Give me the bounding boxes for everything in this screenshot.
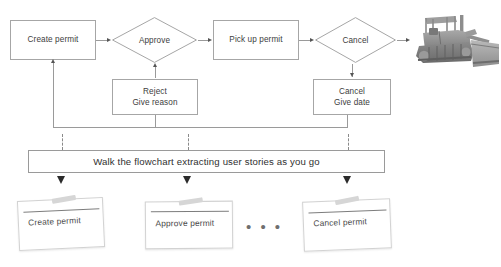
- fat-arrow-to-card-1: [57, 176, 65, 184]
- node-pick-up-permit: Pick up permit: [213, 20, 299, 60]
- arrowhead-create-to-approve: [107, 38, 111, 42]
- tape-icon: [178, 197, 202, 205]
- dashed-drop-left: [62, 134, 63, 150]
- instruction-banner-label: Walk the flowchart extracting user stori…: [93, 156, 320, 167]
- arrowhead-reject-to-approve: [153, 63, 157, 67]
- card-rule: [309, 209, 386, 213]
- dashed-drop-right: [348, 134, 349, 150]
- loop-riser-to-create: [53, 62, 54, 128]
- dashed-drop-middle: [188, 134, 189, 150]
- story-card-label: Create permit: [28, 215, 81, 227]
- bulldozer-photo: [411, 6, 499, 70]
- card-rule: [151, 211, 228, 213]
- node-cancel-label: Cancel: [315, 17, 396, 63]
- story-card-label: Approve permit: [155, 217, 214, 228]
- fat-arrow-to-card-2: [183, 176, 191, 184]
- story-card-label: Cancel permit: [313, 217, 367, 229]
- node-approve-label: Approve: [112, 17, 197, 63]
- arrowhead-pickup-to-cancel: [310, 38, 314, 42]
- fat-arrow-to-card-3: [343, 176, 351, 184]
- story-card: Cancel permit: [302, 198, 392, 251]
- arrowhead-loop-to-create: [51, 59, 55, 63]
- node-cancel-give-date-line1: Cancel: [339, 86, 365, 97]
- tape-icon: [51, 195, 75, 204]
- story-card: Approve permit: [145, 201, 233, 250]
- node-cancel: Cancel: [315, 17, 396, 63]
- arrowhead-approve-to-pickup: [208, 38, 212, 42]
- tape-icon: [335, 196, 360, 206]
- node-pick-up-permit-label: Pick up permit: [229, 34, 282, 45]
- node-reject-give-reason: Reject Give reason: [112, 79, 198, 115]
- ellipsis-more-cards: • • •: [246, 218, 283, 235]
- node-create-permit: Create permit: [10, 20, 96, 60]
- arrowhead-cancel-to-end: [406, 38, 410, 42]
- node-create-permit-label: Create permit: [28, 34, 79, 45]
- story-card: Create permit: [17, 197, 105, 251]
- instruction-banner: Walk the flowchart extracting user stori…: [28, 150, 385, 173]
- card-rule: [23, 208, 99, 212]
- node-reject-line2: Give reason: [132, 97, 177, 108]
- arrowhead-cancel-to-givedate: [350, 73, 354, 77]
- loop-horizontal-return: [53, 127, 348, 128]
- flowchart-diagram: Create permit Approve Pick up permit Can…: [0, 0, 501, 267]
- node-cancel-give-date-line2: Give date: [334, 97, 370, 108]
- node-approve: Approve: [112, 17, 197, 63]
- node-cancel-give-date: Cancel Give date: [313, 79, 391, 115]
- node-reject-line1: Reject: [143, 86, 167, 97]
